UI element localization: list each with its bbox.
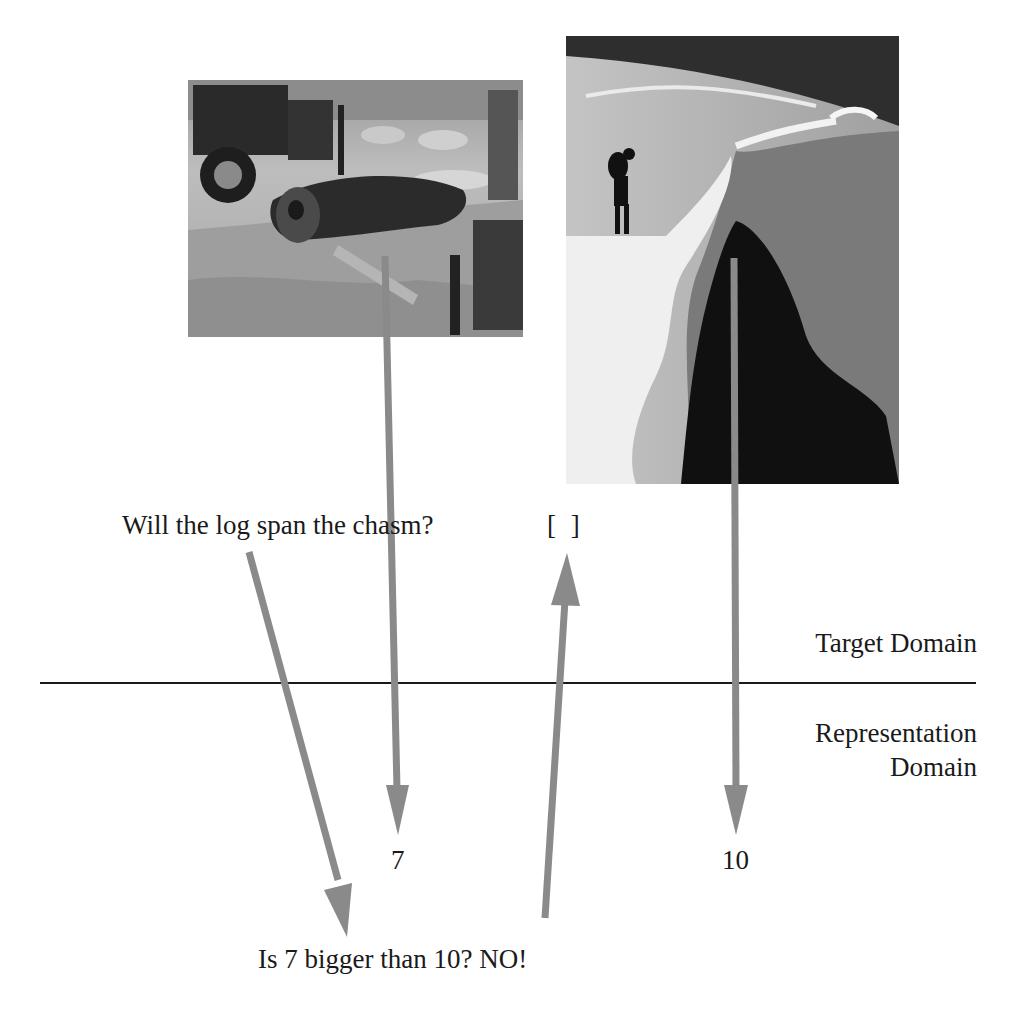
representation-domain-label-line1: Representation: [815, 718, 977, 749]
arrow-comparison-to-answer: [545, 553, 580, 918]
arrow-log-to-7: [385, 256, 409, 835]
arrow-question-to-comparison: [249, 552, 352, 937]
question-text: Will the log span the chasm?: [122, 510, 434, 541]
arrow-chasm-to-10: [724, 258, 748, 835]
diagram-arrows: [0, 0, 1017, 1018]
chasm-value: 10: [722, 845, 749, 876]
log-value: 7: [391, 845, 405, 876]
answer-box: [ ]: [547, 510, 584, 541]
representation-domain-label-line2: Domain: [890, 752, 977, 783]
target-domain-label: Target Domain: [815, 628, 977, 659]
comparison-text: Is 7 bigger than 10? NO!: [258, 944, 527, 975]
